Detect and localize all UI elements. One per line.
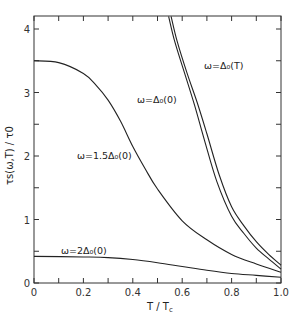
annotation-1-5-delta: ω=1.5Δ₀(0) [77,150,132,161]
y-axis-label: τs(ω,T) / τ0 [4,126,15,185]
y-tick-label: 3 [24,88,30,99]
annotation-delta-0: ω=Δ₀(0) [137,94,177,105]
y-tick-label: 4 [24,24,30,35]
curve----0-0- [169,16,281,269]
annotation-delta-t: ω=Δ₀(T) [204,60,243,71]
x-tick-label: 1.0 [273,287,289,298]
x-axis-label: T / Tc [146,301,173,314]
y-tick-label: 1 [24,215,30,226]
curve----0-t- [171,16,281,265]
y-tick-label: 0 [24,278,30,289]
x-tick-label: 0.8 [224,287,240,298]
data-curves [34,16,281,277]
x-tick-label: 0.4 [125,287,141,298]
chart: 00.20.40.60.81.001234 ω=Δ₀(T) ω=Δ₀(0) ω=… [0,0,295,317]
y-tick-label: 2 [24,151,30,162]
plot-frame [34,16,281,283]
x-tick-label: 0.6 [174,287,190,298]
x-tick-label: 0.2 [75,287,91,298]
annotation-2-delta: ω=2Δ₀(0) [61,245,107,256]
curve---1-5-0-0- [34,61,281,272]
x-tick-label: 0 [31,287,37,298]
